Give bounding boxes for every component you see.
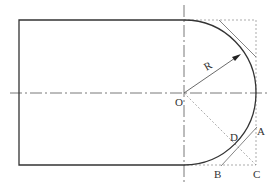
tangent-line-top [219,20,256,57]
drawing-canvas: R O D A B C [0,0,273,190]
radius-line [184,56,238,93]
label-point-c: C [253,168,260,180]
label-center-o: O [175,96,183,108]
label-point-d: D [230,131,238,143]
tangent-line-a-b [221,127,257,166]
construction-box [184,20,256,165]
label-radius: R [201,58,214,72]
label-point-a: A [257,125,265,137]
radius-arrowhead [232,54,241,61]
diagonal-o-c [184,93,256,165]
label-point-b: B [214,168,221,180]
part-outline [19,20,256,165]
